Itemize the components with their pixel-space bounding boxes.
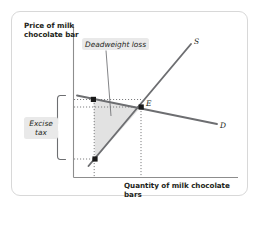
excise-tax-label: Excise tax <box>24 117 58 139</box>
deadweight-loss-region <box>94 100 142 160</box>
demand-curve-label: D <box>220 121 226 130</box>
supply-curve-label: S <box>194 37 199 46</box>
x-axis-label: Quantity of milk chocolate bars <box>124 181 244 199</box>
deadweight-loss-label: Deadweight loss <box>82 38 149 50</box>
y-axis-label: Price of milk chocolate bar <box>24 21 84 39</box>
equilibrium-marker <box>139 104 144 109</box>
producer-price-marker <box>92 156 97 161</box>
consumer-price-marker <box>91 97 96 102</box>
equilibrium-point-label: E <box>146 99 151 108</box>
